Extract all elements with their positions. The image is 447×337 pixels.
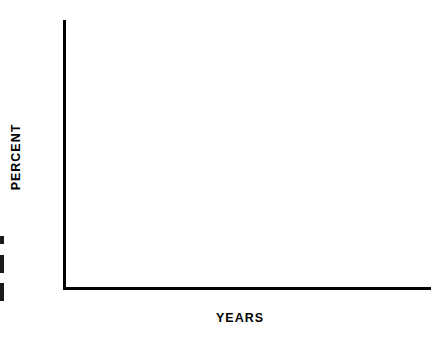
survival-chart: PERCENT YEARS <box>0 0 447 337</box>
y-axis-title: PERCENT <box>9 124 23 191</box>
page-edge-mark <box>0 283 4 301</box>
chart-axes <box>63 20 431 289</box>
page-edge-mark <box>0 255 4 273</box>
x-axis-title: YEARS <box>216 311 264 325</box>
page-edge-mark <box>0 236 4 244</box>
figure-root: PERCENT YEARS <box>0 0 447 337</box>
